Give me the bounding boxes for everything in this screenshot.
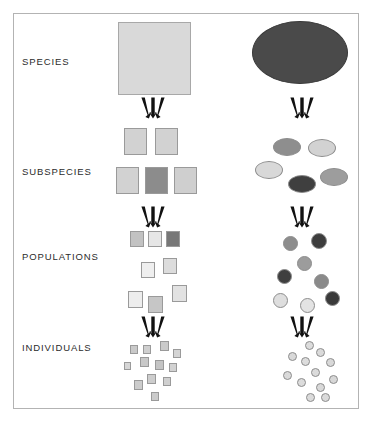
subspecies-square-5: [174, 167, 197, 194]
arrow-group-populations-to-individuals-right: [285, 316, 319, 338]
population-square-3: [166, 231, 180, 247]
individual-circle-10: [316, 383, 325, 392]
subspecies-square-1: [124, 128, 147, 155]
subspecies-square-2: [155, 128, 178, 155]
population-circle-8: [325, 291, 340, 306]
population-circle-7: [300, 298, 315, 313]
level-label-subspecies: SUBSPECIES: [22, 166, 92, 177]
individual-square-12: [151, 392, 159, 401]
population-circle-1: [283, 236, 298, 251]
individual-square-3: [160, 341, 169, 351]
individual-circle-7: [283, 371, 292, 380]
arrow-group-subspecies-to-populations-right: [285, 206, 319, 228]
subspecies-ellipse-1: [273, 138, 301, 156]
population-square-5: [163, 258, 177, 274]
arrow-group-populations-to-individuals-left: [136, 316, 170, 338]
individual-square-4: [173, 349, 181, 358]
population-circle-4: [277, 269, 292, 284]
individual-square-10: [134, 380, 143, 390]
population-circle-5: [314, 274, 329, 289]
level-label-populations: POPULATIONS: [22, 251, 99, 262]
arrow-group-subspecies-to-populations-left: [136, 206, 170, 228]
individual-square-7: [155, 360, 164, 370]
level-label-individuals: INDIVIDUALS: [22, 342, 92, 353]
individual-circle-9: [329, 375, 338, 384]
population-circle-2: [311, 233, 327, 249]
population-square-1: [130, 231, 144, 247]
subspecies-square-4: [145, 167, 168, 194]
arrow-group-species-to-subspecies-left: [136, 97, 170, 119]
individual-square-1: [130, 345, 138, 354]
individual-circle-3: [288, 352, 297, 361]
individual-square-11: [163, 377, 171, 386]
population-circle-6: [273, 293, 288, 308]
diagram-canvas: SPECIESSUBSPECIESPOPULATIONSINDIVIDUALS: [0, 0, 374, 425]
individual-circle-4: [301, 357, 310, 366]
subspecies-ellipse-2: [308, 139, 336, 157]
population-square-4: [141, 262, 155, 278]
individual-circle-12: [321, 393, 330, 402]
individual-circle-8: [297, 378, 306, 387]
population-square-2: [148, 231, 162, 247]
population-circle-3: [297, 256, 312, 271]
individual-circle-6: [311, 368, 320, 377]
population-square-7: [148, 296, 163, 313]
individual-circle-5: [326, 358, 335, 367]
individual-circle-11: [306, 393, 315, 402]
species-ellipse: [252, 21, 348, 84]
population-square-8: [172, 285, 187, 302]
population-square-6: [128, 291, 143, 308]
individual-circle-1: [305, 341, 314, 350]
subspecies-square-3: [116, 167, 139, 194]
subspecies-ellipse-5: [320, 168, 348, 186]
species-square: [118, 22, 191, 95]
subspecies-ellipse-3: [255, 161, 283, 179]
individual-circle-2: [316, 348, 325, 357]
individual-square-9: [147, 374, 156, 384]
individual-square-6: [140, 357, 149, 367]
arrow-group-species-to-subspecies-right: [285, 97, 319, 119]
individual-square-8: [169, 363, 177, 372]
individual-square-5: [124, 362, 131, 370]
level-label-species: SPECIES: [22, 56, 69, 67]
subspecies-ellipse-4: [288, 175, 316, 193]
individual-square-2: [143, 345, 151, 354]
